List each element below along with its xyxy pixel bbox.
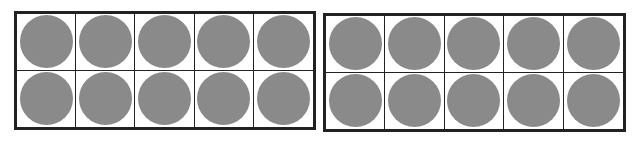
counter-circle [447, 74, 500, 127]
counter-circle [388, 17, 441, 70]
frame-cell [385, 73, 444, 130]
counter-circle [567, 74, 620, 127]
frame-cell [76, 71, 135, 128]
counter-circle [20, 72, 73, 125]
frame-cell [326, 16, 385, 73]
counter-circle [197, 72, 250, 125]
frame-cell [135, 71, 194, 128]
counter-circle [79, 15, 132, 68]
frame-cell [504, 73, 563, 130]
counter-circle [138, 15, 191, 68]
counter-circle [507, 74, 560, 127]
frame-cell [504, 16, 563, 73]
frame-cell [195, 14, 254, 71]
counter-circle [388, 74, 441, 127]
counter-circle [138, 72, 191, 125]
frame-cell [254, 71, 313, 128]
frame-cell [17, 71, 76, 128]
frame-cell [564, 16, 623, 73]
frame-cell [564, 73, 623, 130]
frame-cell [254, 14, 313, 71]
counter-circle [567, 17, 620, 70]
frame-cell [326, 73, 385, 130]
counter-circle [447, 17, 500, 70]
frame-cell [445, 16, 504, 73]
ten-frame-left [14, 11, 316, 130]
counter-circle [507, 17, 560, 70]
ten-frame-right [323, 13, 626, 132]
counter-circle [329, 17, 382, 70]
frame-cell [17, 14, 76, 71]
frame-cell [195, 71, 254, 128]
frame-cell [135, 14, 194, 71]
counter-circle [257, 72, 310, 125]
counter-circle [329, 74, 382, 127]
frame-cell [385, 16, 444, 73]
counter-circle [197, 15, 250, 68]
counter-circle [20, 15, 73, 68]
frame-cell [76, 14, 135, 71]
frame-cell [445, 73, 504, 130]
counter-circle [79, 72, 132, 125]
counter-circle [257, 15, 310, 68]
